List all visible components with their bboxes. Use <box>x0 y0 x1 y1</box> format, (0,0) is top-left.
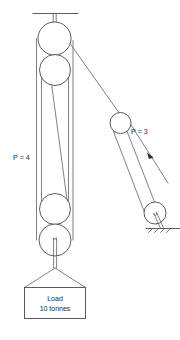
diagram-canvas: P = 4 P = <box>0 0 180 340</box>
left-block-rope-diagonal <box>51 76 69 207</box>
right-block-label: P = 3 <box>131 127 148 136</box>
ground-hatch-2 <box>155 229 159 233</box>
ground-hatch-1 <box>149 229 153 233</box>
ground-hatch-3 <box>161 229 165 233</box>
load-box <box>25 288 86 319</box>
load-sling-left <box>25 268 56 288</box>
pulley-right-lower <box>144 202 166 224</box>
ground-hatch-4 <box>167 229 171 233</box>
pulley-system-svg: P = 4 P = <box>0 0 180 340</box>
left-block-label: P = 4 <box>13 153 30 162</box>
pulley-left-3 <box>40 194 71 225</box>
pulley-left-4 <box>39 224 71 256</box>
rope-top-to-right-block <box>71 45 122 118</box>
pulley-right-upper <box>110 113 131 134</box>
left-pulley-block <box>37 22 74 268</box>
load-title: Load <box>47 295 63 302</box>
load-weight: 10 tonnes <box>40 305 71 312</box>
right-block-rope-left <box>114 132 148 221</box>
load-sling-right <box>55 268 85 288</box>
pulley-left-2 <box>40 55 71 86</box>
pulley-left-1 <box>38 22 71 55</box>
pull-direction-arrow-icon <box>147 153 154 159</box>
